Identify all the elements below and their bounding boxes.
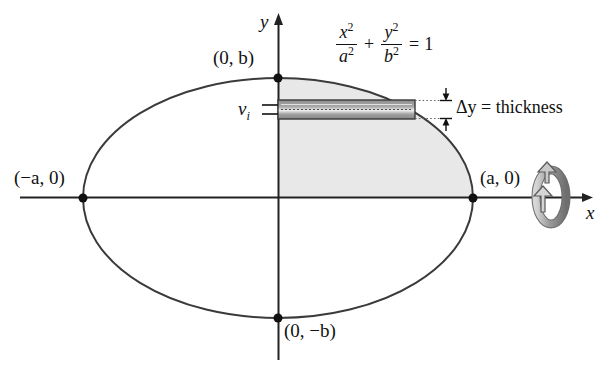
vertex-dot-right — [469, 194, 478, 203]
y-axis-arrowhead — [274, 13, 283, 25]
vertex-label-bottom: (0, −b) — [284, 321, 336, 340]
ellipse-equation: x2 a2 + y2 b2 = 1 — [334, 22, 433, 67]
y-axis-label: y — [260, 12, 268, 31]
equation-equals-operator: = — [409, 34, 419, 55]
vertex-label-right: (a, 0) — [480, 168, 520, 187]
equation-plus-operator: + — [364, 34, 374, 55]
equation-fraction-x: x2 a2 — [336, 22, 357, 67]
vertex-dot-left — [79, 194, 88, 203]
equation-numerator-x: x2 — [337, 22, 357, 44]
slab-value-leader — [262, 105, 278, 114]
thickness-dimension-arrows — [440, 88, 452, 131]
equation-right-side: 1 — [424, 34, 433, 55]
revolution-arrow-icon — [534, 162, 566, 224]
thickness-label: Δy = thickness — [456, 98, 563, 116]
slab-value-subscript: i — [246, 109, 249, 123]
vertex-dot-bottom — [274, 314, 283, 323]
ellipse-volume-figure: y x (0, b) (0, −b) (−a, 0) (a, 0) vi Δy … — [0, 0, 613, 382]
equation-fraction-y: y2 b2 — [381, 22, 402, 67]
equation-numerator-y: y2 — [382, 22, 402, 44]
representative-slab — [278, 100, 415, 119]
vertex-label-top: (0, b) — [213, 48, 254, 67]
equation-denominator-b: b2 — [381, 44, 402, 67]
slab-value-label: vi — [238, 99, 250, 118]
vertex-label-left: (−a, 0) — [14, 168, 65, 187]
vertex-dot-top — [274, 74, 283, 83]
equation-denominator-a: a2 — [336, 44, 357, 67]
x-axis-arrowhead — [582, 193, 593, 202]
x-axis-label: x — [586, 203, 594, 222]
